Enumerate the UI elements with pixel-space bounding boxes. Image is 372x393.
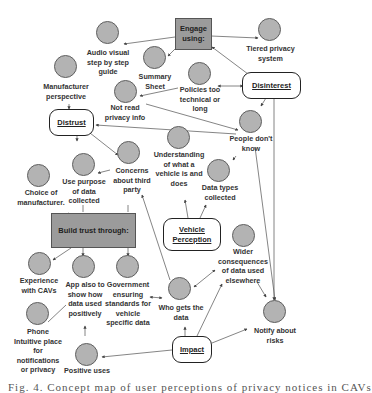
node-wider-consequences-circle — [232, 224, 255, 247]
node-manufacturer-perspective-circle — [54, 55, 77, 78]
node-use-purpose-circle — [72, 153, 95, 176]
node-use-purpose-label: Use purpose of data collected — [60, 177, 108, 206]
node-positive-uses-label: Positive uses — [62, 366, 112, 376]
node-notify-risks-circle — [263, 300, 286, 323]
theme-disinterest: Disinterest — [242, 72, 301, 99]
node-data-types-circle — [207, 159, 230, 182]
node-summary-sheet-label: Summary Sheet — [135, 72, 175, 91]
node-people-dont-know-circle — [239, 110, 262, 133]
theme-impact: Impact — [172, 336, 212, 363]
node-government-circle — [116, 255, 139, 278]
node-government-label: Government ensuring standards for vehicl… — [102, 280, 154, 328]
node-concerns-third-party-circle — [117, 141, 140, 164]
node-experience-cavs-circle — [28, 252, 51, 275]
node-audio-visual-label: Audio visual step by step guide — [82, 48, 134, 77]
node-who-gets-data-label: Who gets the data — [157, 303, 205, 322]
node-concerns-third-party-label: Concerns about third party — [110, 166, 154, 195]
node-tiered-privacy-label: Tiered privacy system — [243, 44, 298, 63]
node-manufacturer-perspective-label: Manufacturer perspective — [38, 82, 94, 101]
node-who-gets-data-circle — [168, 277, 191, 300]
node-experience-cavs-label: Experience with CAVs — [16, 276, 62, 295]
theme-distrust: Distrust — [49, 109, 94, 136]
node-tiered-privacy-circle — [258, 18, 281, 41]
node-notify-risks-label: Notify about risks — [250, 326, 300, 345]
engage-using-box: Engage using: — [175, 18, 212, 50]
node-not-read-label: Not read privacy info — [101, 103, 149, 122]
figure-caption: Fig. 4. Concept map of user perceptions … — [8, 381, 372, 393]
node-phone-label: Phone Intuitive place for notifications … — [12, 327, 64, 375]
node-people-dont-know-label: People don't know — [225, 134, 277, 153]
node-policies-label: Policies too technical or long — [176, 85, 224, 114]
node-understanding-vehicle-circle — [167, 126, 190, 149]
node-choice-manufacturer-label: Choice of manufacturer. — [16, 188, 66, 207]
node-choice-manufacturer-circle — [27, 164, 50, 187]
node-not-read-circle — [114, 80, 137, 103]
node-positive-uses-circle — [75, 343, 98, 366]
node-audio-visual-circle — [96, 21, 119, 44]
build-trust-box: Build trust through: — [51, 213, 136, 248]
node-wider-consequences-label: Wider consequences of data used elsewher… — [213, 247, 273, 285]
node-app-also-circle — [72, 255, 95, 278]
node-data-types-label: Data types collected — [199, 183, 241, 202]
node-policies-circle — [188, 62, 211, 85]
node-phone-circle — [26, 302, 49, 325]
node-summary-sheet-circle — [143, 46, 166, 69]
